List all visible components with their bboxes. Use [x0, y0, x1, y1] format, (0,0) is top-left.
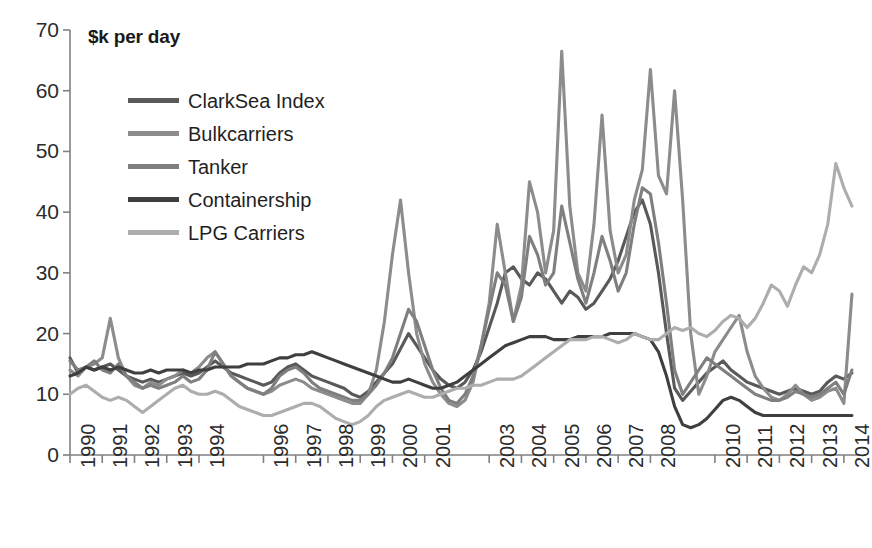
x-axis-tick-label: 2011: [755, 425, 775, 468]
legend-swatch-icon: [128, 230, 179, 235]
x-axis-tick-label: 1993: [175, 424, 195, 469]
legend-item-label: ClarkSea Index: [188, 91, 325, 111]
x-axis-tick-label: 1996: [271, 424, 291, 469]
legend-swatch-icon: [128, 131, 179, 136]
legend-swatch-icon: [128, 197, 179, 202]
y-axis-tick-label: 20: [15, 323, 59, 344]
chart-axis-title: $k per day: [88, 26, 180, 48]
x-axis-tick-label: 2007: [626, 424, 646, 469]
legend-item-clarksea-index[interactable]: ClarkSea Index: [128, 84, 325, 117]
legend-item-label: Bulkcarriers: [188, 124, 294, 144]
x-axis-tick-label: 2014: [852, 424, 872, 469]
legend-swatch-icon: [128, 164, 179, 169]
y-axis-tick-label: 70: [15, 19, 59, 40]
legend-item-lpg-carriers[interactable]: LPG Carriers: [128, 216, 325, 249]
x-axis-tick-label: 1997: [304, 424, 324, 469]
x-axis-tick-label: 2000: [400, 424, 420, 469]
x-axis-tick-label: 2008: [658, 424, 678, 469]
x-axis-tick-label: 2006: [594, 424, 614, 469]
y-axis-tick-label: 30: [15, 262, 59, 283]
y-axis-tick-label: 0: [15, 444, 59, 465]
x-axis-tick-label: 2003: [497, 424, 517, 469]
x-axis-tick-label: 1990: [78, 424, 98, 469]
legend-item-bulkcarriers[interactable]: Bulkcarriers: [128, 117, 325, 150]
x-axis-tick-label: 2010: [723, 424, 743, 469]
legend-swatch-icon: [128, 98, 179, 103]
y-axis-tick-label: 40: [15, 201, 59, 222]
x-axis-tick-label: 2012: [787, 424, 807, 469]
y-axis-tick-label: 50: [15, 140, 59, 161]
x-axis-tick-label: 2005: [562, 424, 582, 469]
x-axis-tick-label: 1998: [336, 424, 356, 469]
chart-container: $k per day 706050403020100 1990199119921…: [0, 0, 872, 548]
legend-item-tanker[interactable]: Tanker: [128, 150, 325, 183]
y-axis-tick-label: 60: [15, 80, 59, 101]
x-axis-tick-label: 1999: [368, 424, 388, 469]
legend-item-label: Tanker: [188, 157, 248, 177]
x-axis-tick-label: 1991: [110, 424, 130, 469]
x-axis-tick-label: 2004: [529, 424, 549, 469]
legend-item-label: LPG Carriers: [188, 223, 305, 243]
x-axis-tick-label: 1992: [142, 424, 162, 469]
y-axis-tick-label: 10: [15, 383, 59, 404]
legend-item-label: Containership: [188, 190, 311, 210]
x-axis-tick-label: 1994: [207, 424, 227, 469]
x-axis-tick-label: 2001: [433, 424, 453, 469]
x-axis-tick-label: 2013: [820, 424, 840, 469]
legend-item-containership[interactable]: Containership: [128, 183, 325, 216]
chart-legend: ClarkSea IndexBulkcarriersTankerContaine…: [128, 84, 325, 249]
